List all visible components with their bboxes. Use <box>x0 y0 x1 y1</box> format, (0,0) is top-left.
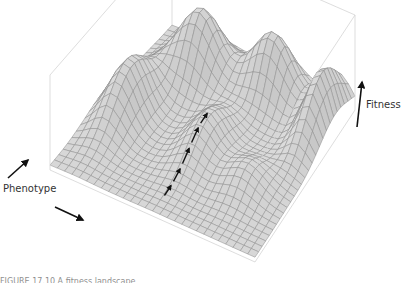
fitness-landscape-figure <box>0 0 411 283</box>
phenotype-arrow-right <box>55 207 83 220</box>
phenotype-arrow-up <box>8 160 28 178</box>
fitness-axis-label: Fitness <box>366 99 401 110</box>
fitness-surface-mesh <box>50 8 355 257</box>
phenotype-axis-label: Phenotype <box>3 183 56 194</box>
fitness-arrow-up <box>357 82 362 127</box>
figure-caption: FIGURE 17.10 A fitness landscape <box>0 276 411 283</box>
